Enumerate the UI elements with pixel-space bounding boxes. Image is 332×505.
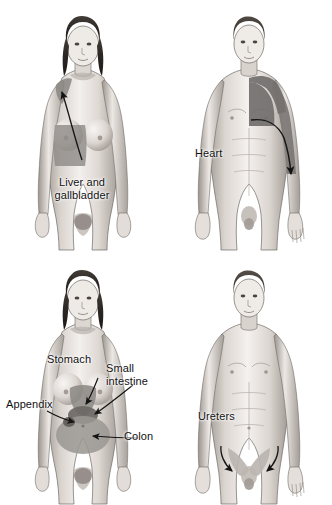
head xyxy=(67,280,99,320)
female-figure-liver-illustration xyxy=(0,0,166,252)
panel-abdominal-organs: Stomach Small intestine Appendix Colon xyxy=(0,252,166,505)
right-hand xyxy=(117,467,131,491)
left-eye xyxy=(241,41,246,44)
genitals xyxy=(244,478,254,490)
right-nipple xyxy=(98,390,103,395)
pubic-hair xyxy=(74,468,92,484)
right-nipple xyxy=(230,116,234,120)
male-figure-ureters-illustration xyxy=(166,252,332,505)
right-eye xyxy=(87,43,92,46)
head xyxy=(67,26,99,66)
left-hand xyxy=(35,467,49,491)
right-eye xyxy=(253,41,258,44)
head xyxy=(234,279,264,317)
navel xyxy=(247,426,250,429)
navel xyxy=(81,424,84,427)
hair-right xyxy=(97,292,103,330)
right-hand xyxy=(195,213,210,239)
right-nipple xyxy=(230,370,234,374)
left-eye xyxy=(75,297,80,300)
male-figure-heart-illustration xyxy=(166,0,332,252)
panel-ureters: Ureters xyxy=(166,252,332,505)
hair-left xyxy=(63,292,69,330)
left-eye xyxy=(241,295,246,298)
right-hand xyxy=(195,467,210,493)
female-figure-abdomen-illustration xyxy=(0,252,166,505)
left-nipple xyxy=(264,370,268,374)
right-hand xyxy=(117,213,131,237)
head xyxy=(234,25,264,63)
right-eye xyxy=(253,295,258,298)
hair-right xyxy=(97,38,103,76)
referred-pain-figure-grid: Liver and gallbladder xyxy=(0,0,332,505)
right-nipple xyxy=(98,136,103,141)
right-breast xyxy=(83,119,113,151)
left-nipple xyxy=(64,390,69,395)
hair-left xyxy=(63,38,69,76)
left-hand xyxy=(35,213,49,237)
left-eye xyxy=(75,43,80,46)
pubic-hair xyxy=(74,214,92,230)
right-eye xyxy=(87,297,92,300)
genitals xyxy=(244,218,254,230)
panel-liver-gallbladder: Liver and gallbladder xyxy=(0,0,166,252)
panel-heart: Heart xyxy=(166,0,332,252)
